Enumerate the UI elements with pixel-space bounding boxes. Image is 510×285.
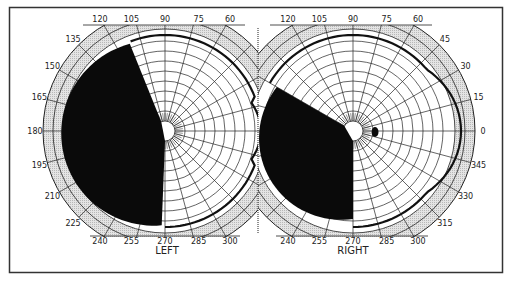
angle-label-105: 105 xyxy=(124,15,139,24)
angle-label-45: 45 xyxy=(440,35,450,44)
angle-label-315: 315 xyxy=(437,219,452,228)
angle-label-300: 300 xyxy=(410,237,425,246)
angle-label-165: 165 xyxy=(32,93,47,102)
angle-label-330: 330 xyxy=(458,192,473,201)
angle-label-60: 60 xyxy=(225,15,235,24)
angle-label-255: 255 xyxy=(312,237,327,246)
angle-label-255: 255 xyxy=(124,237,139,246)
angle-label-345: 345 xyxy=(471,161,486,170)
angle-label-195: 195 xyxy=(32,161,47,170)
angle-label-105: 105 xyxy=(312,15,327,24)
angle-label-135: 135 xyxy=(65,35,80,44)
blind-spot xyxy=(372,127,379,137)
angle-label-180: 180 xyxy=(27,127,42,136)
angle-label-90: 90 xyxy=(160,15,170,24)
angle-label-90: 90 xyxy=(348,15,358,24)
angle-label-285: 285 xyxy=(379,237,394,246)
angle-label-240: 240 xyxy=(280,237,295,246)
angle-label-240: 240 xyxy=(92,237,107,246)
angle-label-120: 120 xyxy=(92,15,107,24)
angle-label-30: 30 xyxy=(460,62,470,71)
angle-label-75: 75 xyxy=(194,15,204,24)
angle-label-285: 285 xyxy=(191,237,206,246)
left-eye-chart xyxy=(43,9,287,253)
right-eye-chart xyxy=(231,9,475,253)
right-eye-label: RIGHT xyxy=(337,245,369,256)
visual-field-figure: 1201059075601351501651801952102252402552… xyxy=(0,0,510,285)
angle-label-0: 0 xyxy=(480,127,485,136)
angle-label-120: 120 xyxy=(280,15,295,24)
angle-label-225: 225 xyxy=(65,219,80,228)
angle-label-210: 210 xyxy=(45,192,60,201)
angle-label-300: 300 xyxy=(222,237,237,246)
angle-label-150: 150 xyxy=(45,62,60,71)
angle-label-60: 60 xyxy=(413,15,423,24)
angle-label-15: 15 xyxy=(473,93,483,102)
left-eye-label: LEFT xyxy=(155,245,179,256)
angle-label-75: 75 xyxy=(382,15,392,24)
